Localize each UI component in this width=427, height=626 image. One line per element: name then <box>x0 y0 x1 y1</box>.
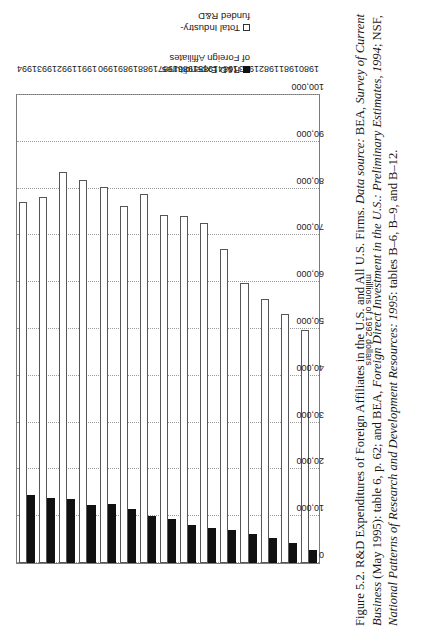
bar-total-industry-funded-rd <box>160 215 168 563</box>
caption-line-3: National Patterns of Research and Develo… <box>385 0 402 626</box>
legend-swatch-open-square-icon <box>243 24 250 31</box>
bar-total-industry-funded-rd <box>79 180 87 563</box>
bar-foreign-affiliates-rd <box>188 525 196 563</box>
chart-frame: 010,00020,00030,00040,00050,00060,00070,… <box>0 0 340 626</box>
value-axis-tick-label: 50,000 <box>296 316 324 326</box>
figure-caption: Figure 5.2. R&D Expenditures of Foreign … <box>352 0 427 626</box>
bar-foreign-affiliates-rd <box>87 505 95 563</box>
value-axis-tick-label: 90,000 <box>296 129 324 139</box>
value-axis-tick-label: 20,000 <box>296 456 324 466</box>
legend-label-line1: R&D Expenditures <box>162 65 240 76</box>
caption-line-2: Business (May 1995): table 6, p. 62; and… <box>369 0 386 626</box>
bar-foreign-affiliates-rd <box>309 550 317 563</box>
bar-foreign-affiliates-rd <box>228 530 236 563</box>
value-axis-tick-label: 40,000 <box>296 363 324 373</box>
bar-total-industry-funded-rd <box>281 314 289 563</box>
chart-legend: R&D Expenditures of Foreign Affiliates T… <box>18 6 318 80</box>
value-axis-tick-label: 80,000 <box>296 176 324 186</box>
bar-total-industry-funded-rd <box>59 172 67 563</box>
legend-item-foreign-affiliates: R&D Expenditures <box>162 65 250 76</box>
chart-rotation-wrapper: 010,00020,00030,00040,00050,00060,00070,… <box>0 0 340 626</box>
legend-swatch-filled-square-icon <box>243 66 250 73</box>
value-axis-tick-label: 100,000 <box>291 82 324 92</box>
bar-foreign-affiliates-rd <box>208 528 216 563</box>
value-axis-tick-label: 10,000 <box>296 503 324 513</box>
bar-total-industry-funded-rd <box>140 194 148 563</box>
legend-label-line2: of Foreign Affiliates <box>169 53 250 64</box>
bar-foreign-affiliates-rd <box>128 509 136 563</box>
value-axis-tick-label: 60,000 <box>296 269 324 279</box>
bar-total-industry-funded-rd <box>120 206 128 563</box>
legend-item-total-industry: Total Industry- <box>180 23 250 34</box>
legend-item-foreign-affiliates-line2: of Foreign Affiliates <box>169 53 250 64</box>
figure-page: 010,00020,00030,00040,00050,00060,00070,… <box>0 0 427 626</box>
gridline <box>17 141 319 142</box>
legend-label-line2: funded R&D <box>198 11 250 22</box>
bar-foreign-affiliates-rd <box>67 499 75 563</box>
value-axis-tick-label: 30,000 <box>296 410 324 420</box>
bar-foreign-affiliates-rd <box>108 504 116 563</box>
plot-area <box>16 94 320 564</box>
caption-line-1: Figure 5.2. R&D Expenditures of Foreign … <box>352 0 369 626</box>
bar-total-industry-funded-rd <box>220 249 228 563</box>
value-axis-tick-label: 0 <box>319 550 324 560</box>
value-axis-tick-label: 70,000 <box>296 222 324 232</box>
bar-total-industry-funded-rd <box>180 216 188 563</box>
bar-foreign-affiliates-rd <box>168 519 176 563</box>
bars-container <box>17 95 319 563</box>
bar-total-industry-funded-rd <box>261 299 269 563</box>
bar-total-industry-funded-rd <box>100 187 108 563</box>
bar-total-industry-funded-rd <box>240 283 248 563</box>
bar-foreign-affiliates-rd <box>47 498 55 563</box>
bar-total-industry-funded-rd <box>200 223 208 563</box>
bar-total-industry-funded-rd <box>39 197 47 563</box>
bar-foreign-affiliates-rd <box>249 534 257 563</box>
bar-foreign-affiliates-rd <box>269 538 277 563</box>
gridline <box>17 94 319 95</box>
legend-label-line1: Total Industry- <box>180 23 240 34</box>
bar-foreign-affiliates-rd <box>289 543 297 563</box>
legend-item-total-industry-line2: funded R&D <box>198 11 250 22</box>
bar-foreign-affiliates-rd <box>148 516 156 563</box>
bar-total-industry-funded-rd <box>19 202 27 563</box>
bar-foreign-affiliates-rd <box>27 495 35 563</box>
